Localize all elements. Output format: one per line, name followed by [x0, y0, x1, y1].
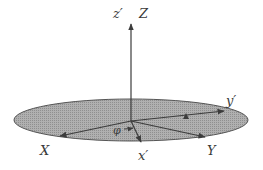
x-prime-label: x′	[138, 149, 148, 162]
phi-label: φ	[113, 125, 121, 136]
y-prime-label: y′	[226, 94, 236, 107]
X-label: X	[40, 144, 49, 157]
z-prime-label: z′	[113, 7, 123, 20]
Y-label: Y	[207, 144, 216, 157]
Z-label: Z	[139, 7, 148, 20]
